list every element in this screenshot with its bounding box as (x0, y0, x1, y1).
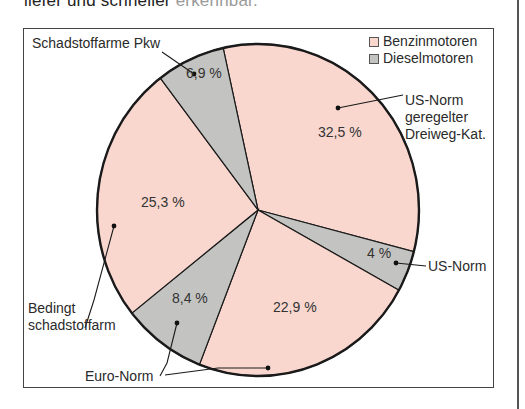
slice-value-us-kat: 32,5 % (318, 124, 362, 140)
leader-dot (112, 224, 117, 229)
legend-item-benzin: Benzinmotoren (369, 33, 477, 50)
legend-swatch-benzin (369, 37, 379, 47)
slice-value-schadstoffarm-diesel: 6,9 % (186, 65, 222, 81)
label-bedingt-schadstoffarm: Bedingt schadstoffarm (28, 300, 116, 334)
label-line: Bedingt (28, 300, 116, 317)
label-us-norm-kat: US-Norm geregelter Dreiweg-Kat. (405, 92, 486, 143)
legend-item-diesel: Dieselmotoren (369, 50, 477, 67)
legend-swatch-diesel (369, 54, 379, 64)
label-line: Dreiweg-Kat. (405, 126, 486, 143)
slice-value-us-norm-diesel: 4 % (367, 245, 391, 261)
label-us-norm: US-Norm (428, 258, 486, 274)
leader-dot (175, 321, 180, 326)
leader-dot (266, 366, 271, 371)
legend-label: Benzinmotoren (383, 33, 477, 50)
leader-dot (336, 106, 341, 111)
slice-value-bedingt: 25,3 % (141, 194, 185, 210)
leader-dot (394, 261, 399, 266)
slice-value-euro-diesel: 8,4 % (172, 290, 208, 306)
label-line: geregelter (405, 109, 486, 126)
chart-legend: Benzinmotoren Dieselmotoren (369, 33, 477, 67)
legend-label: Dieselmotoren (383, 50, 473, 67)
label-euro-norm: Euro-Norm (85, 368, 153, 384)
label-line: schadstoffarm (28, 317, 116, 334)
slice-value-euro-benzin: 22,9 % (273, 299, 317, 315)
label-schadstoffarme-pkw: Schadstoffarme Pkw (32, 35, 160, 51)
label-line: US-Norm (405, 92, 486, 109)
